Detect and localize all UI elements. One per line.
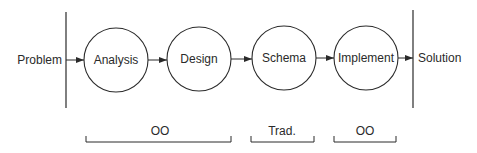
group-oo-implement: OO bbox=[334, 124, 396, 142]
stage-label: Schema bbox=[262, 51, 306, 65]
stage-design: Design bbox=[167, 27, 231, 91]
group-trad-schema: Trad. bbox=[251, 124, 314, 142]
stage-label: Implement bbox=[338, 51, 395, 65]
problem-label: Problem bbox=[17, 53, 62, 67]
stage-label: Analysis bbox=[94, 53, 139, 67]
stage-analysis: Analysis bbox=[84, 28, 148, 92]
solution-label: Solution bbox=[418, 51, 461, 65]
stage-schema: Schema bbox=[252, 26, 316, 90]
group-label: OO bbox=[151, 124, 170, 138]
group-oo-analysis-design: OO bbox=[86, 124, 231, 142]
stage-implement: Implement bbox=[334, 26, 398, 90]
group-label: Trad. bbox=[268, 124, 296, 138]
group-label: OO bbox=[356, 124, 375, 138]
stage-label: Design bbox=[180, 52, 217, 66]
process-diagram: Problem Analysis Design Schema Implement… bbox=[0, 0, 477, 153]
